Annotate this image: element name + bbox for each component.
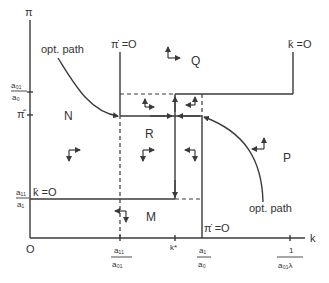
svg-text:a₀: a₀ — [198, 260, 206, 269]
y-tick-a01-over-a0: a₀₁ a₀ — [11, 81, 27, 102]
x-axis-label: k — [310, 232, 316, 244]
direction-arrow-r-left — [143, 150, 154, 161]
svg-text:a₀₁λ: a₀₁λ — [278, 261, 292, 270]
svg-text:1: 1 — [289, 246, 294, 255]
svg-text:a₀₁: a₀₁ — [11, 81, 22, 90]
region-p: P — [283, 151, 291, 165]
origin-label: O — [26, 243, 35, 255]
k-dot-zero-label-right: k̇ =O — [288, 38, 312, 50]
y-tick-pi-hat: π̂ — [17, 108, 27, 120]
optimal-path-left — [58, 58, 118, 116]
phase-diagram: π k O a₀₁ a₀ π̂ a₁₁ a₁ a₁₁ a₀₁ k* a₁ a₀ … — [0, 0, 329, 283]
y-tick-a11-over-a1: a₁₁ a₁ — [16, 188, 29, 209]
pi-dot-zero-label-bottom: π̇ =O — [204, 222, 230, 234]
opt-path-label-right: opt. path — [249, 202, 292, 214]
direction-arrow-p — [252, 138, 264, 149]
svg-text:a₁₁: a₁₁ — [114, 246, 124, 255]
y-axis-label: π — [25, 6, 33, 18]
k-dot-zero-label-left: k̇ =O — [33, 186, 57, 198]
x-tick-a11-over-a01: a₁₁ a₀₁ — [111, 246, 132, 269]
direction-arrow-n-lower — [69, 150, 80, 161]
svg-text:a₁: a₁ — [17, 200, 24, 209]
pi-dot-zero-label-top: π̇ =O — [111, 38, 137, 50]
region-q: Q — [191, 54, 200, 68]
svg-text:a₁₁: a₁₁ — [16, 188, 26, 197]
region-m: M — [146, 210, 156, 224]
direction-arrow-upper-right — [186, 97, 195, 105]
x-tick-inv-a01-lambda: 1 a₀₁λ — [277, 246, 303, 270]
svg-text:a₀: a₀ — [12, 93, 20, 102]
direction-arrow-q — [168, 47, 180, 58]
region-n: N — [64, 109, 73, 123]
optimal-path-right — [204, 117, 263, 202]
x-tick-k-star: k* — [170, 243, 177, 252]
svg-text:a₀₁: a₀₁ — [112, 260, 123, 269]
direction-arrow-r-right — [185, 150, 195, 161]
k-dot-zero-locus-upper — [120, 52, 293, 94]
opt-path-label-left: opt. path — [41, 43, 84, 55]
x-tick-a1-over-a0: a₁ a₀ — [197, 246, 211, 269]
direction-arrow-upper-left — [145, 99, 154, 107]
region-r: R — [145, 127, 154, 141]
svg-text:a₁: a₁ — [199, 246, 206, 255]
